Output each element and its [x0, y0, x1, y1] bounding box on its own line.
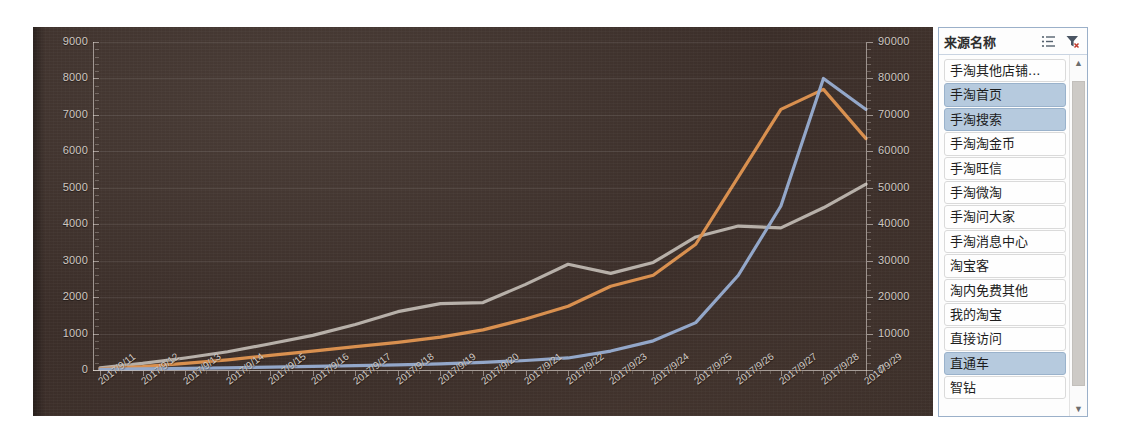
y-axis-right-tick-label: 40000	[878, 217, 910, 229]
legend-item[interactable]: 手淘微淘	[944, 181, 1066, 204]
legend-item[interactable]: 我的淘宝	[944, 303, 1066, 326]
gridline	[100, 151, 866, 152]
y-axis-minor-tick	[95, 71, 99, 72]
y-axis-minor-tick	[867, 144, 871, 145]
y-axis-minor-tick	[867, 312, 871, 313]
y-axis-minor-tick	[95, 355, 99, 356]
gridline	[100, 224, 866, 225]
gridline	[100, 188, 866, 189]
legend-item[interactable]: 手淘其他店铺...	[944, 59, 1066, 82]
chart-panel: 0010001000020002000030003000040004000050…	[33, 27, 933, 416]
legend-item[interactable]: 手淘首页	[944, 83, 1066, 106]
y-axis-minor-tick	[95, 246, 99, 247]
y-axis-tick	[867, 115, 873, 116]
series-line	[100, 184, 866, 368]
x-axis-minor-tick	[472, 371, 473, 374]
y-axis-tick	[867, 261, 873, 262]
y-axis-left-tick-label: 4000	[33, 217, 88, 229]
y-axis-minor-tick	[867, 363, 871, 364]
y-axis-minor-tick	[95, 290, 99, 291]
y-axis-tick	[867, 297, 873, 298]
x-axis-minor-tick	[557, 371, 558, 374]
scroll-down-icon[interactable]: ▼	[1070, 401, 1087, 416]
x-axis-minor-tick	[600, 371, 601, 374]
y-axis-minor-tick	[867, 326, 871, 327]
legend-panel[interactable]: 来源名称	[938, 27, 1088, 417]
legend-item[interactable]: 手淘搜索	[944, 108, 1066, 131]
y-axis-minor-tick	[867, 202, 871, 203]
y-axis-minor-tick	[867, 232, 871, 233]
y-axis-left-tick-label: 0	[33, 363, 88, 375]
y-axis-minor-tick	[867, 341, 871, 342]
y-axis-minor-tick	[95, 108, 99, 109]
x-axis-minor-tick	[685, 371, 686, 374]
y-axis-minor-tick	[95, 93, 99, 94]
legend-item[interactable]: 手淘旺信	[944, 157, 1066, 180]
legend-scrollbar[interactable]: ▲ ▼	[1069, 55, 1087, 416]
x-axis-minor-tick	[387, 371, 388, 374]
y-axis-minor-tick	[95, 275, 99, 276]
legend-item[interactable]: 直通车	[944, 352, 1066, 375]
y-axis-minor-tick	[867, 71, 871, 72]
y-axis-minor-tick	[867, 210, 871, 211]
y-axis-minor-tick	[867, 180, 871, 181]
y-axis-minor-tick	[95, 326, 99, 327]
y-axis-minor-tick	[867, 64, 871, 65]
y-axis-right-tick-label: 60000	[878, 144, 910, 156]
y-axis-minor-tick	[95, 180, 99, 181]
y-axis-minor-tick	[95, 363, 99, 364]
clear-filter-icon[interactable]	[1065, 34, 1080, 49]
y-axis-tick	[867, 188, 873, 189]
legend-item[interactable]: 淘宝客	[944, 254, 1066, 277]
y-axis-minor-tick	[867, 159, 871, 160]
y-axis-minor-tick	[95, 268, 99, 269]
y-axis-minor-tick	[95, 144, 99, 145]
legend-item-list[interactable]: 手淘其他店铺...手淘首页手淘搜索手淘淘金币手淘旺信手淘微淘手淘问大家手淘消息中…	[939, 55, 1069, 416]
gridline	[100, 334, 866, 335]
y-axis-minor-tick	[867, 275, 871, 276]
y-axis-right-tick-label: 70000	[878, 108, 910, 120]
y-axis-minor-tick	[867, 129, 871, 130]
y-axis-minor-tick	[867, 319, 871, 320]
y-axis-minor-tick	[867, 166, 871, 167]
legend-item[interactable]: 直接访问	[944, 327, 1066, 350]
list-sort-icon[interactable]	[1041, 34, 1056, 49]
y-axis-minor-tick	[95, 122, 99, 123]
x-axis-minor-tick	[728, 371, 729, 374]
x-axis-minor-tick	[855, 371, 856, 374]
scroll-up-icon[interactable]: ▲	[1070, 55, 1087, 70]
y-axis-minor-tick	[867, 348, 871, 349]
legend-item[interactable]: 淘内免费其他	[944, 279, 1066, 302]
gridline	[100, 297, 866, 298]
y-axis-minor-tick	[867, 217, 871, 218]
x-axis-minor-tick	[260, 371, 261, 374]
legend-item[interactable]: 手淘淘金币	[944, 132, 1066, 155]
y-axis-minor-tick	[867, 173, 871, 174]
x-axis-minor-tick	[813, 371, 814, 374]
gridline	[100, 261, 866, 262]
axis-line-right	[866, 42, 867, 371]
x-axis-minor-tick	[217, 371, 218, 374]
y-axis-minor-tick	[95, 341, 99, 342]
y-axis-left-tick-label: 1000	[33, 327, 88, 339]
y-axis-tick	[867, 151, 873, 152]
y-axis-tick	[867, 78, 873, 79]
y-axis-right-tick-label: 80000	[878, 71, 910, 83]
legend-item[interactable]: 手淘问大家	[944, 205, 1066, 228]
legend-item[interactable]: 智钻	[944, 376, 1066, 399]
y-axis-minor-tick	[95, 129, 99, 130]
y-axis-minor-tick	[95, 348, 99, 349]
y-axis-tick	[867, 42, 873, 43]
y-axis-minor-tick	[867, 290, 871, 291]
y-axis-minor-tick	[867, 100, 871, 101]
legend-item[interactable]: 手淘消息中心	[944, 230, 1066, 253]
y-axis-left-tick-label: 6000	[33, 144, 88, 156]
plot-area: 0010001000020002000030003000040004000050…	[100, 42, 866, 370]
x-axis-minor-tick	[132, 371, 133, 374]
y-axis-minor-tick	[95, 304, 99, 305]
y-axis-minor-tick	[867, 253, 871, 254]
scrollbar-thumb[interactable]	[1072, 81, 1085, 386]
gridline	[100, 78, 866, 79]
y-axis-right-tick-label: 30000	[878, 254, 910, 266]
y-axis-minor-tick	[95, 49, 99, 50]
